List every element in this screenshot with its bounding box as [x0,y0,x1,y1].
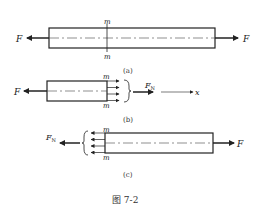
section-label-top-a: m [104,18,111,26]
section-label-bottom-a: m [104,53,111,61]
panel-label-b: (b) [123,116,133,124]
panel-label-a: (a) [123,67,133,75]
section-label-bottom-b: m [103,102,110,110]
figure-caption: 图 7-2 [112,195,138,205]
force-label-right-c: F [236,139,244,149]
panel-a: F F m m (a) [15,18,250,75]
section-label-top-c: m [103,126,110,134]
figure-diagram: F F m m (a) F FN x m m (b) [0,0,259,216]
internal-force-label-b: FN [144,81,156,91]
section-label-bottom-c: m [103,154,110,162]
force-label-left-a: F [15,34,23,44]
x-axis-label-b: x [195,88,200,97]
panel-label-c: (c) [123,171,133,179]
panel-c: FN F m m (c) [45,126,244,179]
internal-force-label-c: FN [45,133,57,143]
distributed-stress-arrows-b [107,81,119,101]
brace-b [124,80,131,102]
brace-c [82,131,88,155]
force-label-right-a: F [242,34,250,44]
force-label-left-b: F [13,87,21,97]
section-label-top-b: m [103,73,110,81]
distributed-stress-arrows-c [91,133,105,153]
panel-b: F FN x m m (b) [13,73,200,124]
